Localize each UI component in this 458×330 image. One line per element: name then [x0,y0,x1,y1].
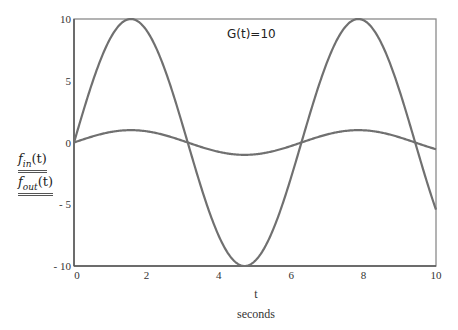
legend-f-out-subscript: out [23,182,38,192]
legend-f-in-subscript: in [23,159,32,169]
f-in-curve [74,130,436,155]
y-tick-labels: - 10- 50510 [54,13,72,272]
plot-frame [74,19,436,266]
f-out-curve [74,19,436,266]
legend-f-in-arg: (t) [32,151,47,166]
x-tick-label: 10 [431,269,443,281]
x-tick-label: 4 [216,269,222,281]
gain-annotation-text: G(t)=10 [227,27,276,41]
x-tick-labels: 0246810 [74,269,442,281]
x-tick-label: 0 [74,269,80,281]
y-tick-label: 0 [66,137,72,149]
legend-f-in: fin(t) [18,151,47,173]
y-tick-label: 5 [66,75,72,87]
legend-f-out: fout(t) [18,174,53,196]
y-tick-label: 10 [60,13,72,25]
plot-area: - 10- 50510 0246810 [0,0,458,330]
x-tick-label: 8 [361,269,367,281]
legend-f-out-arg: (t) [38,174,53,189]
y-tick-label: - 5 [59,198,71,210]
x-axis-units: seconds [206,307,306,322]
y-tick-label: - 10 [54,260,72,272]
gain-annotation: G(t)=10 [227,27,276,41]
x-tick-label: 2 [144,269,150,281]
x-tick-label: 6 [288,269,294,281]
x-axis-label: t [206,287,306,302]
